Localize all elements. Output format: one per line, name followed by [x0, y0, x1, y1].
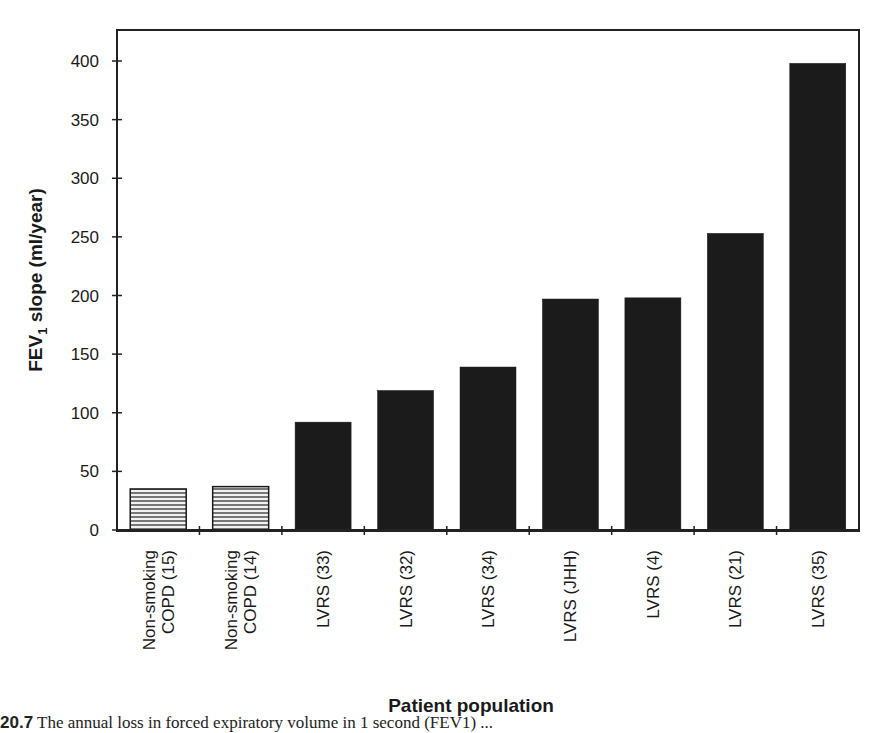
bar-chart: 050100150200250300350400 Non-smokingCOPD…	[0, 0, 880, 733]
bar	[460, 367, 516, 530]
bar	[625, 298, 681, 530]
y-tick-label: 400	[71, 52, 99, 71]
y-axis-label: FEV1 slope (ml/year)	[25, 188, 50, 372]
y-tick-label: 350	[71, 111, 99, 130]
y-tick-label: 0	[90, 521, 99, 540]
bar	[130, 489, 186, 530]
bars	[130, 63, 846, 530]
bar	[790, 63, 846, 530]
x-tick-label: COPD (14)	[241, 550, 260, 634]
x-tick-label: LVRS (4)	[644, 550, 663, 619]
y-axis: 050100150200250300350400	[71, 52, 122, 540]
y-tick-label: 100	[71, 404, 99, 423]
bar	[213, 487, 269, 530]
x-tick-label: LVRS (21)	[726, 550, 745, 628]
caption-text: The annual loss in forced expiratory vol…	[33, 713, 493, 732]
y-tick-label: 150	[71, 345, 99, 364]
x-axis: Non-smokingCOPD (15)Non-smokingCOPD (14)…	[117, 526, 859, 650]
x-tick-label: LVRS (35)	[809, 550, 828, 628]
x-tick-label: Non-smoking	[140, 550, 159, 650]
x-tick-label: Non-smoking	[222, 550, 241, 650]
figure-caption: 20.7 The annual loss in forced expirator…	[0, 713, 880, 733]
x-tick-label: LVRS (32)	[397, 550, 416, 628]
y-tick-label: 200	[71, 287, 99, 306]
y-tick-label: 250	[71, 228, 99, 247]
bar	[707, 233, 763, 530]
x-tick-label: LVRS (34)	[479, 550, 498, 628]
y-tick-label: 50	[80, 462, 99, 481]
y-tick-label: 300	[71, 169, 99, 188]
x-tick-label: COPD (15)	[159, 550, 178, 634]
bar	[542, 299, 598, 530]
x-tick-label: LVRS (JHH)	[561, 550, 580, 642]
bar	[295, 422, 351, 530]
bar	[378, 390, 434, 530]
x-tick-label: LVRS (33)	[314, 550, 333, 628]
caption-label: 20.7	[0, 713, 33, 732]
